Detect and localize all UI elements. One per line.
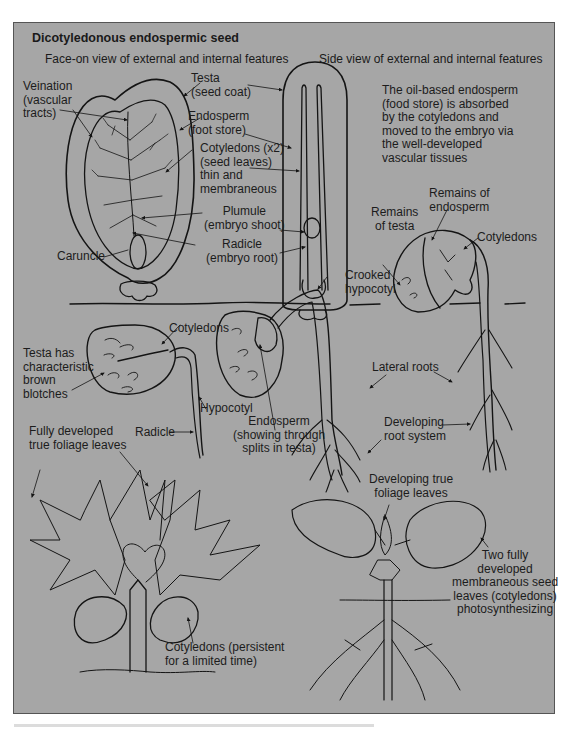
label-testa: Testa (seed coat) bbox=[191, 72, 251, 99]
label-cotyledons-persistent: Cotyledons (persistent for a limited tim… bbox=[165, 641, 284, 668]
label-two-seed-leaves: Two fully developed membraneous seed lea… bbox=[452, 549, 558, 617]
label-plumule: Plumule (embryo shoot) bbox=[204, 205, 285, 232]
label-radicle: Radicle (embryo root) bbox=[206, 238, 278, 265]
label-cotyledons-x2: Cotyledons (x2) (seed leaves) thin and m… bbox=[200, 142, 284, 196]
side-view-heading: Side view of external and internal featu… bbox=[319, 52, 542, 66]
label-cotyledons-emerged: Cotyledons bbox=[477, 231, 537, 245]
label-developing-root-system: Developing root system bbox=[384, 416, 446, 443]
label-cotyledons-early: Cotyledons bbox=[169, 322, 229, 336]
figure-caption-truncated bbox=[14, 721, 374, 730]
label-crooked-hypocotyl: Crooked hypocotyl bbox=[345, 269, 396, 296]
seed-face-view-drawing bbox=[66, 79, 194, 300]
seed-side-view-drawing bbox=[283, 62, 347, 320]
label-lateral-roots: Lateral roots bbox=[372, 361, 439, 375]
face-view-heading: Face-on view of external and internal fe… bbox=[45, 52, 288, 66]
label-true-foliage-leaves: Fully developed true foliage leaves bbox=[29, 425, 126, 452]
label-developing-true-leaves: Developing true foliage leaves bbox=[369, 473, 453, 500]
label-endosperm-splits: Endosperm (showing through splits in tes… bbox=[233, 415, 325, 456]
label-remains-of-endosperm: Remains of endosperm bbox=[429, 187, 490, 214]
soil-line bbox=[70, 302, 330, 304]
label-hypocotyl: Hypocotyl bbox=[200, 402, 253, 416]
label-remains-of-testa: Remains of testa bbox=[371, 206, 418, 233]
label-caruncle: Caruncle bbox=[57, 250, 105, 264]
label-testa-blotches: Testa has characteristic brown blotches bbox=[23, 347, 94, 401]
side-view-note: The oil-based endosperm (food store) is … bbox=[382, 84, 518, 165]
label-radicle-early: Radicle bbox=[135, 426, 175, 440]
figure-title: Dicotyledonous endospermic seed bbox=[32, 31, 239, 45]
label-veination: Veination (vascular tracts) bbox=[23, 80, 72, 121]
label-endosperm: Endosperm (foot store) bbox=[188, 110, 249, 137]
